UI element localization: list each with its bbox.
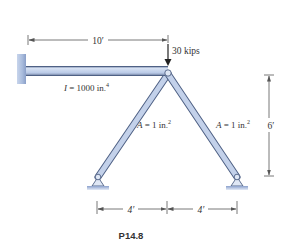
fixed-wall (17, 54, 26, 84)
dim-height-label: 6′ (268, 121, 275, 131)
dim-left-span-label: 4′ (128, 205, 136, 215)
beam-inertia-label: I = 1000 in.4 (63, 82, 109, 93)
top-joint-pin (165, 70, 171, 76)
load-arrow (165, 44, 172, 66)
dimension-spans (97, 201, 237, 214)
figure-caption: P14.8 (119, 230, 144, 241)
left-strut-area-label: A = 1 in.2 (136, 119, 171, 130)
right-strut-area-label: A = 1 in.2 (215, 119, 250, 130)
dim-right-span-label: 4′ (198, 205, 206, 215)
load-label: 30 kips (172, 46, 200, 56)
structure-diagram: 30 kips 10′ I = 1000 in.4 A = 1 in.2 A =… (0, 0, 289, 249)
cantilever-beam (26, 66, 168, 76)
right-pin-support (226, 174, 248, 190)
left-pin-support (87, 174, 109, 190)
dim-beam-length-label: 10′ (92, 36, 104, 46)
